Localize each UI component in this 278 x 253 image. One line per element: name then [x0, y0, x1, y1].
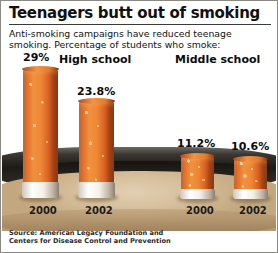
- cigarette-body: [23, 69, 58, 197]
- bar-value-label: 23.8%: [77, 85, 115, 98]
- subtitle-line-1: Anti-smoking campaigns have reduced teen…: [9, 28, 271, 39]
- subtitle-line-2: smoking. Percentage of students who smok…: [9, 39, 271, 50]
- group-label-middle-school: Middle school: [175, 53, 260, 66]
- infographic-chart: Teenagers butt out of smoking Anti-smoki…: [0, 0, 278, 253]
- cigarette-texture: [23, 69, 58, 197]
- cigarette-top: [233, 156, 268, 162]
- bar-year-label: 2002: [85, 205, 113, 216]
- header: Teenagers butt out of smoking Anti-smoki…: [1, 1, 278, 50]
- cigarette-paper: [180, 189, 215, 199]
- bar-cigarette: [79, 101, 114, 197]
- source-note: Source: American Legacy Foundation and C…: [9, 230, 171, 246]
- title-divider: [9, 24, 271, 25]
- group-label-high-school: High school: [59, 53, 131, 66]
- bar-value-label: 11.2%: [177, 137, 215, 150]
- subtitle: Anti-smoking campaigns have reduced teen…: [9, 28, 271, 50]
- cigarette-top: [180, 153, 215, 159]
- bar-year-label: 2000: [186, 205, 214, 216]
- source-line-2: Centers for Disease Control and Preventi…: [9, 238, 171, 246]
- bar-value-label: 10.6%: [231, 140, 269, 153]
- bar-cigarette: [181, 156, 214, 198]
- bar-cigarette: [234, 159, 267, 198]
- cigarette-paper: [233, 189, 268, 199]
- bar-cigarette: [23, 69, 58, 197]
- bar-year-label: 2002: [239, 205, 267, 216]
- page-title: Teenagers butt out of smoking: [9, 5, 271, 22]
- cigarette-top: [22, 66, 59, 72]
- cigarette-paper: [22, 182, 59, 198]
- cigarette-top: [78, 98, 115, 104]
- bar-year-label: 2000: [29, 205, 57, 216]
- cigarette-paper: [78, 182, 115, 198]
- bar-value-label: 29%: [23, 51, 49, 64]
